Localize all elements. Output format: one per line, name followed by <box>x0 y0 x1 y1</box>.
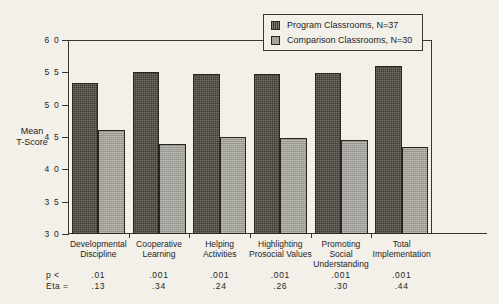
group-separator-1 <box>129 233 130 238</box>
p-value-row-label: p < <box>46 270 60 280</box>
y-tick-label-45: 4 5 <box>32 132 60 142</box>
legend-label-program: Program Classrooms, N=37 <box>287 20 398 30</box>
bar-comparison-1 <box>98 130 125 234</box>
bar-comparison-2 <box>159 144 186 234</box>
legend-item-comparison: Comparison Classrooms, N=30 <box>271 35 412 45</box>
y-tick-label-40: 4 0 <box>32 164 60 174</box>
x-axis-label-5-line3: Understanding <box>302 259 381 269</box>
legend-swatch-comparison-icon <box>271 36 280 45</box>
bar-program-6 <box>375 66 402 234</box>
legend-swatch-program-icon <box>271 21 280 30</box>
bar-comparison-6 <box>402 147 429 234</box>
bar-comparison-3 <box>220 137 247 234</box>
y-tick-label-55: 5 5 <box>32 67 60 77</box>
x-axis-label-6-line2: Implementation <box>362 249 441 259</box>
bar-comparison-5 <box>341 140 368 234</box>
bar-program-3 <box>193 74 220 234</box>
y-tick-label-60: 6 0 <box>32 35 60 45</box>
y-tick-mark-30 <box>62 234 69 235</box>
y-tick-label-50: 5 0 <box>32 100 60 110</box>
x-axis-label-6-line1: Total <box>362 239 441 249</box>
legend-label-comparison: Comparison Classrooms, N=30 <box>287 35 412 45</box>
group-separator-4 <box>311 233 312 238</box>
x-axis-label-6: TotalImplementation <box>362 239 441 259</box>
group-separator-5 <box>371 233 372 238</box>
bars-layer <box>68 40 432 234</box>
legend-item-program: Program Classrooms, N=37 <box>271 20 412 30</box>
bar-program-2 <box>133 72 160 234</box>
bar-program-1 <box>72 83 99 234</box>
legend: Program Classrooms, N=37 Comparison Clas… <box>263 14 423 51</box>
group-separator-3 <box>250 233 251 238</box>
y-tick-label-35: 3 5 <box>32 197 60 207</box>
group-separator-2 <box>189 233 190 238</box>
bar-program-4 <box>254 74 281 234</box>
bar-comparison-4 <box>280 138 307 234</box>
chart-root: Mean T-Score 6 05 55 04 54 03 53 0 Progr… <box>0 0 499 304</box>
p-value-6: .001 <box>362 270 441 280</box>
bar-program-5 <box>315 73 342 234</box>
y-tick-label-30: 3 0 <box>32 229 60 239</box>
eta-value-6: .44 <box>362 281 441 291</box>
